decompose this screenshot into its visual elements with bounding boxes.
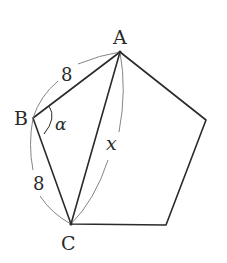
- dimension-arc-ab: [78, 52, 120, 64]
- length-label-bc: 8: [33, 173, 44, 194]
- dimension-arc-ac-lower: [71, 160, 108, 224]
- length-label-ab: 8: [61, 64, 72, 85]
- vertex-label-a: A: [112, 26, 127, 48]
- dimension-arc-ab-lower: [33, 81, 58, 118]
- angle-alpha-arc: [44, 106, 52, 134]
- diagram-canvas: A B C 8 8 x α: [0, 0, 227, 263]
- length-label-ac: x: [106, 132, 117, 154]
- vertex-c-dot: [69, 222, 72, 225]
- dimension-arc-ac: [119, 52, 123, 132]
- dimension-arc-bc: [31, 118, 34, 170]
- vertex-label-b: B: [14, 107, 28, 129]
- pentagon-outline: [33, 52, 206, 225]
- vertex-a-dot: [118, 50, 121, 53]
- vertex-label-c: C: [61, 232, 76, 254]
- angle-label-alpha: α: [55, 114, 67, 134]
- pentagon-diagram: A B C 8 8 x α: [0, 0, 227, 263]
